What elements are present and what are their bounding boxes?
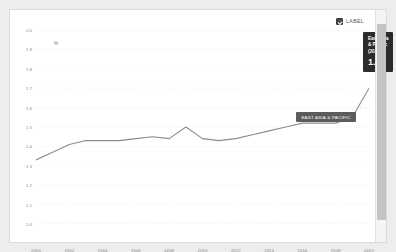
gridlines xyxy=(36,30,369,224)
y-tick-label: 1.6 xyxy=(10,105,32,110)
x-tick-label: 2018 xyxy=(331,248,341,252)
y-tick-label: 1.1 xyxy=(10,202,32,207)
y-tick-label: 1.4 xyxy=(10,144,32,149)
series-line-east-asia-pacific xyxy=(36,88,369,160)
screenshot-root: LABEL % 2.01.91.81.71.61.51.41.31.21.11.… xyxy=(0,0,396,252)
y-tick-label: 1.2 xyxy=(10,183,32,188)
vertical-scrollbar-thumb[interactable] xyxy=(377,24,386,220)
x-tick-label: 2020 xyxy=(364,248,374,252)
chart-card: LABEL % 2.01.91.81.71.61.51.41.31.21.11.… xyxy=(9,9,387,243)
y-tick-label: 1.0 xyxy=(10,222,32,227)
y-tick-label: 1.5 xyxy=(10,125,32,130)
x-tick-label: 2014 xyxy=(264,248,274,252)
checkbox-checked-icon[interactable] xyxy=(336,18,343,25)
x-tick-label: 2008 xyxy=(164,248,174,252)
y-tick-label: 1.8 xyxy=(10,66,32,71)
x-tick-label: 2006 xyxy=(131,248,141,252)
label-toggle-text: LABEL xyxy=(346,18,364,25)
vertical-scrollbar-track[interactable] xyxy=(375,10,386,242)
plot-area: % 2.01.91.81.71.61.51.41.31.21.11.0 2000… xyxy=(36,30,369,224)
y-tick-label: 1.7 xyxy=(10,86,32,91)
x-tick-label: 2012 xyxy=(231,248,241,252)
x-tick-label: 2004 xyxy=(98,248,108,252)
x-tick-label: 2010 xyxy=(198,248,208,252)
line-chart-svg xyxy=(36,30,369,224)
y-tick-label: 2.0 xyxy=(10,28,32,33)
series-label-badge[interactable]: EAST ASIA & PACIFIC xyxy=(296,112,355,122)
y-tick-label: 1.3 xyxy=(10,163,32,168)
y-tick-label: 1.9 xyxy=(10,47,32,52)
y-axis-unit: % xyxy=(54,41,58,46)
x-tick-label: 2002 xyxy=(64,248,74,252)
label-toggle[interactable]: LABEL xyxy=(336,16,364,27)
x-tick-label: 2016 xyxy=(298,248,308,252)
x-tick-label: 2000 xyxy=(31,248,41,252)
